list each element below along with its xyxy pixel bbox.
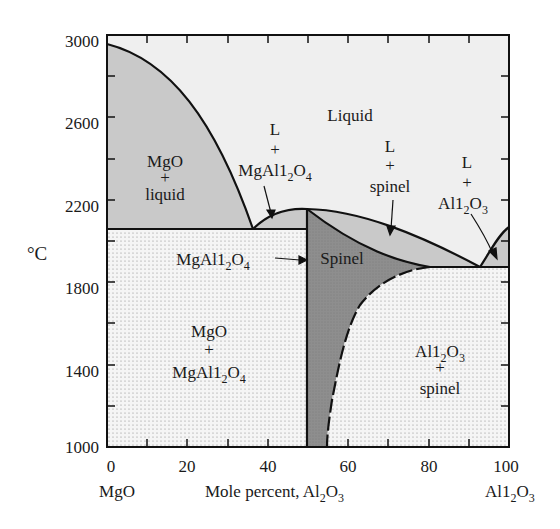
- label-plus: +: [385, 156, 395, 175]
- x-axis-title: Mole percent, Al2O3: [205, 482, 344, 505]
- x-tick-label: 100: [493, 457, 519, 476]
- x-tick-label: 0: [107, 457, 116, 476]
- label-l-spinel: L: [385, 137, 395, 156]
- label-liquid-word: liquid: [145, 185, 185, 204]
- label-plus: +: [462, 173, 472, 192]
- y-tick-label: 1000: [65, 438, 99, 457]
- label-liquid: Liquid: [327, 106, 373, 125]
- y-tick-label: 2200: [65, 197, 99, 216]
- label-plus: +: [270, 140, 280, 159]
- label-mgo-mgal2o4: MgO: [191, 322, 227, 341]
- x-tick-label: 80: [421, 457, 438, 476]
- label-spinel: Spinel: [320, 249, 364, 268]
- label-l-al2o3: L: [462, 153, 472, 172]
- x-left-component: MgO: [99, 482, 135, 501]
- x-tick-label: 40: [260, 457, 277, 476]
- label-spinel-word: spinel: [370, 177, 411, 196]
- label-plus: +: [435, 358, 445, 377]
- y-tick-label: 3000: [65, 32, 99, 51]
- label-l-mgal2o4: L: [270, 120, 280, 139]
- y-tick-label: 1800: [65, 279, 99, 298]
- label-plus: +: [204, 340, 214, 359]
- x-axis-title-o: O: [326, 482, 338, 501]
- phase-diagram: 3000 2600 2200 1800 1400 1000 °C 0 20 40…: [0, 0, 560, 529]
- x-tick-label: 20: [179, 457, 196, 476]
- y-tick-label: 2600: [65, 114, 99, 133]
- x-tick-label: 60: [340, 457, 357, 476]
- y-tick-label: 1400: [65, 362, 99, 381]
- label-spinel-word: spinel: [420, 379, 461, 398]
- y-axis-title: °C: [27, 243, 47, 264]
- x-right-component: Al12O3: [485, 482, 535, 505]
